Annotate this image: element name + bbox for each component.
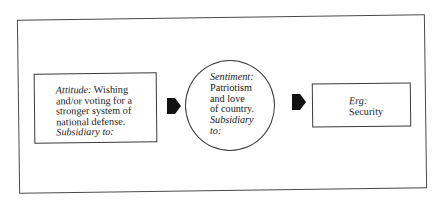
sentiment-subsidiary-2: to: — [210, 126, 270, 137]
attitude-label: Attitude: — [56, 84, 92, 95]
erg-text: Erg: Security — [349, 96, 383, 118]
sentiment-line-1: Patriotism — [210, 83, 270, 94]
arrow-right-icon — [292, 92, 306, 112]
attitude-box: Attitude: Wishing and/or voting for a st… — [34, 72, 158, 143]
attitude-line-1: Wishing — [94, 84, 128, 95]
sentiment-circle: Sentiment: Patriotism and love of countr… — [185, 60, 275, 151]
sentiment-text: Sentiment: Patriotism and love of countr… — [210, 72, 270, 137]
attitude-subsidiary: Subsidiary to: — [56, 127, 152, 139]
erg-box: Erg: Security — [312, 82, 411, 127]
attitude-text: Attitude: Wishing and/or voting for a st… — [56, 84, 153, 138]
arrow-right-icon — [167, 96, 181, 116]
erg-line-1: Security — [349, 107, 383, 118]
